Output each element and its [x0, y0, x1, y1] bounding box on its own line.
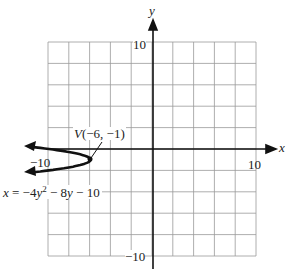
- vertex-leader-line: [91, 142, 102, 158]
- equation-label: x = −4y2 − 8y − 10: [3, 185, 102, 199]
- y-max-tick-label: 10: [133, 38, 146, 51]
- x-max-tick-label: 10: [248, 158, 261, 171]
- x-min-tick-label: −10: [30, 156, 50, 169]
- axes: [48, 20, 276, 269]
- y-axis-label: y: [149, 4, 155, 17]
- x-axis-label: x: [279, 141, 285, 154]
- curve-arrow-top-icon: [24, 141, 36, 151]
- x-axis-arrow-icon: [266, 145, 276, 153]
- y-axis-arrow-icon: [149, 20, 157, 30]
- vertex-coords: (−6, −1): [82, 126, 125, 141]
- vertex-label: V(−6, −1): [73, 127, 126, 140]
- y-min-tick-label: −10: [125, 250, 145, 263]
